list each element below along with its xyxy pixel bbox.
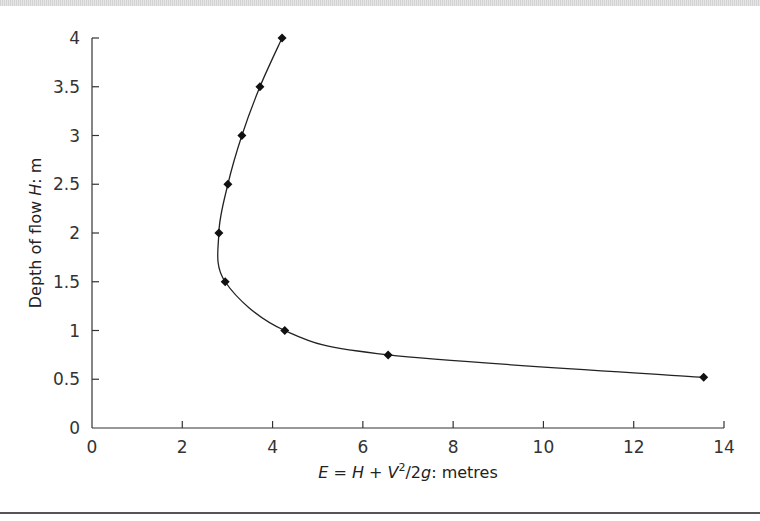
x-tick-label: 14 <box>713 437 735 457</box>
data-point-marker <box>237 131 246 140</box>
y-tick-label: 3.5 <box>53 77 80 97</box>
x-ticks: 02468101214 <box>87 421 735 457</box>
chart: 02468101214 00.511.522.533.54 E = H + V2… <box>0 0 760 521</box>
x-tick-label: 0 <box>87 437 98 457</box>
y-tick-label: 4 <box>69 28 80 48</box>
y-tick-label: 1.5 <box>53 272 80 292</box>
data-point-marker <box>255 82 264 91</box>
y-tick-label: 0 <box>69 418 80 438</box>
data-point-marker <box>280 326 289 335</box>
y-tick-label: 2 <box>69 223 80 243</box>
x-tick-label: 8 <box>448 437 459 457</box>
data-point-marker <box>223 180 232 189</box>
y-tick-label: 3 <box>69 126 80 146</box>
x-tick-label: 4 <box>267 437 278 457</box>
y-tick-label: 2.5 <box>53 174 80 194</box>
data-point-marker <box>221 277 230 286</box>
series-markers <box>214 34 708 382</box>
y-tick-label: 1 <box>69 321 80 341</box>
axes <box>92 38 724 428</box>
y-tick-label: 0.5 <box>53 369 80 389</box>
series-line <box>218 38 704 377</box>
y-axis-title: Depth of flow H: m <box>26 158 45 308</box>
x-tick-label: 6 <box>357 437 368 457</box>
x-tick-label: 12 <box>623 437 645 457</box>
x-tick-label: 2 <box>177 437 188 457</box>
data-point-marker <box>699 373 708 382</box>
x-axis-title: E = H + V2/2g: metres <box>318 461 498 482</box>
data-point-marker <box>384 350 393 359</box>
data-point-marker <box>278 34 287 43</box>
data-point-marker <box>214 229 223 238</box>
x-tick-label: 10 <box>533 437 555 457</box>
